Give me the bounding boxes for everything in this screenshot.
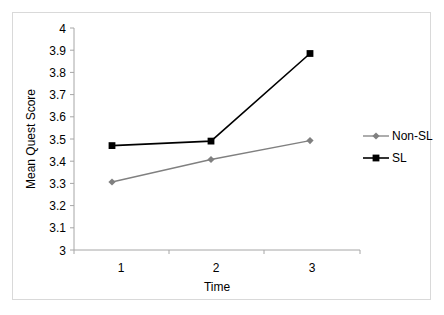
- y-tick-label-3.3: 3.3: [49, 177, 66, 191]
- x-tick-label-2: 2: [213, 261, 220, 275]
- y-tick-label-3.7: 3.7: [49, 88, 66, 102]
- y-tick-label-3.9: 3.9: [49, 44, 66, 58]
- x-axis-title: Time: [204, 280, 231, 294]
- x-axis-ticks: [74, 250, 360, 254]
- series-sl-line: [112, 54, 310, 146]
- legend-label-sl: SL: [392, 151, 407, 165]
- y-tick-label-3.6: 3.6: [49, 110, 66, 124]
- legend-item-non-sl[interactable]: Non-SL: [363, 129, 433, 143]
- x-tick-label-3: 3: [309, 261, 316, 275]
- series-sl-markers: [109, 50, 314, 149]
- y-tick-label-3.1: 3.1: [49, 221, 66, 235]
- line-chart-plot: 4 3.9 3.8 3.7 3.6 3.5 3.4 3.3 3.2 3.1 3 …: [0, 0, 444, 315]
- y-tick-label-3.2: 3.2: [49, 199, 66, 213]
- y-tick-label-3.5: 3.5: [49, 133, 66, 147]
- chart-legend: Non-SL SL: [363, 129, 433, 165]
- y-tick-label-3: 3: [59, 244, 66, 258]
- y-tick-label-3.4: 3.4: [49, 155, 66, 169]
- series-sl: [109, 50, 314, 149]
- y-axis-title: Mean Quest Score: [24, 89, 38, 189]
- y-tick-label-3.8: 3.8: [49, 66, 66, 80]
- legend-item-sl[interactable]: SL: [363, 151, 407, 165]
- chart-figure: 4 3.9 3.8 3.7 3.6 3.5 3.4 3.3 3.2 3.1 3 …: [0, 0, 444, 315]
- legend-label-non-sl: Non-SL: [392, 129, 433, 143]
- legend-marker-non-sl: [372, 132, 379, 139]
- y-tick-label-4: 4: [59, 22, 66, 36]
- y-axis-ticks: [70, 28, 74, 250]
- x-tick-label-1: 1: [118, 261, 125, 275]
- legend-marker-sl: [373, 155, 380, 162]
